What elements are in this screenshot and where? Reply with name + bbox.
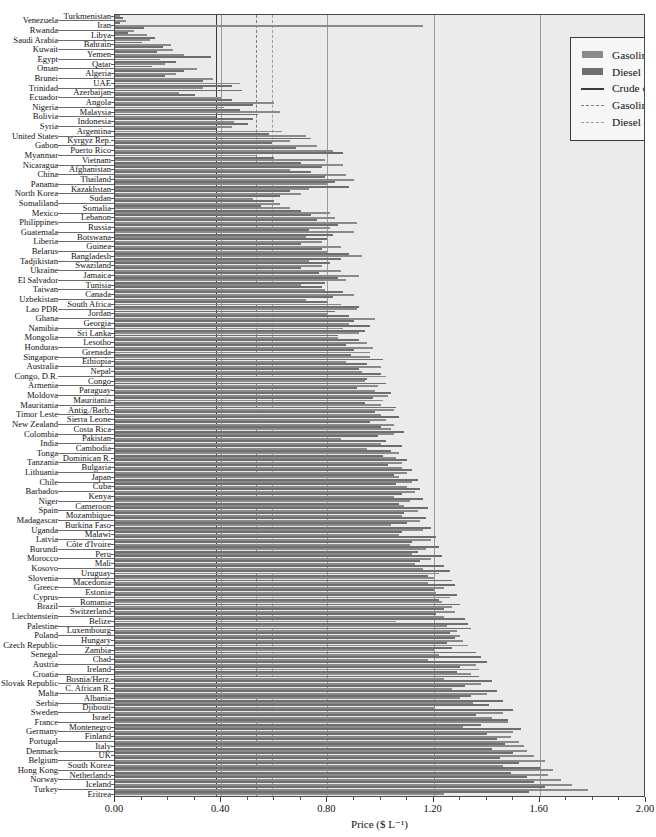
country-label-inner: Grenada xyxy=(82,348,111,356)
label-leader xyxy=(111,496,114,497)
country-label-inner: UAE xyxy=(93,79,111,87)
country-label-inner: Bosnia/Herz. xyxy=(66,675,111,683)
country-label-inner: Tunisia xyxy=(86,281,111,289)
x-tick-label: 1.60 xyxy=(530,803,548,814)
country-label-inner: Iceland xyxy=(86,780,111,788)
country-label-inner: South Korea xyxy=(68,761,111,769)
label-leader xyxy=(111,140,114,141)
legend-label: Gasoline xyxy=(612,49,645,61)
country-label-inner: Botswana xyxy=(77,233,111,241)
x-axis: 0.000.400.801.201.602.00 xyxy=(114,797,645,837)
country-label-inner: Peru xyxy=(95,550,111,558)
label-leader xyxy=(111,410,114,411)
country-label-inner: UK xyxy=(99,751,111,759)
country-label-inner: Nepal xyxy=(90,367,111,375)
label-leader xyxy=(111,112,114,113)
label-leader xyxy=(111,717,114,718)
label-leader xyxy=(111,169,114,170)
label-leader xyxy=(111,381,114,382)
country-label-inner: Pakistan xyxy=(82,434,111,442)
label-leader xyxy=(111,458,114,459)
country-label-inner: Georgia xyxy=(83,319,111,327)
label-leader xyxy=(111,698,114,699)
label-leader xyxy=(111,400,114,401)
country-label-inner: Sudan xyxy=(90,194,111,202)
label-leader xyxy=(111,285,114,286)
label-leader xyxy=(111,794,114,795)
country-label-inner: Kazakhstan xyxy=(71,185,111,193)
label-leader xyxy=(111,390,114,391)
label-leader xyxy=(111,189,114,190)
country-label-inner: Swaziland xyxy=(75,261,111,269)
label-leader xyxy=(111,361,114,362)
fuel-price-chart: GasolineDieselCrude oil price $0.38 L⁻¹G… xyxy=(0,0,656,837)
x-tick xyxy=(326,797,327,802)
country-label-inner: Finland xyxy=(85,732,111,740)
country-label-inner: Canada xyxy=(85,290,111,298)
label-leader xyxy=(111,92,114,93)
country-label-inner: Lebanon xyxy=(81,213,111,221)
legend-row: Gasoline xyxy=(581,46,645,63)
x-tick xyxy=(220,797,221,802)
country-label-inner: Angola xyxy=(86,98,111,106)
country-label-inner: Jordan xyxy=(88,309,111,317)
country-label-inner: Montenegro xyxy=(69,723,111,731)
legend-key-diesel-cost-line xyxy=(581,114,605,131)
label-leader xyxy=(111,313,114,314)
label-leader xyxy=(111,727,114,728)
legend-key-gasoline-swatch xyxy=(581,46,605,63)
country-label-inner: Somalia xyxy=(83,204,111,212)
x-tick xyxy=(353,797,354,800)
country-label-inner: Kyrgyz Rep. xyxy=(67,136,111,144)
label-leader xyxy=(111,294,114,295)
inner-country-label-column: TurkmenistanIranLibyaBahrainYemenQatarAl… xyxy=(0,14,114,797)
country-label-inner: Ireland xyxy=(87,665,111,673)
label-leader xyxy=(111,506,114,507)
label-leader xyxy=(111,25,114,26)
label-leader xyxy=(111,611,114,612)
bar-rows xyxy=(115,15,644,796)
x-tick-label: 2.00 xyxy=(636,803,654,814)
country-label-inner: Afghanistan xyxy=(69,165,111,173)
x-tick xyxy=(380,797,381,800)
label-leader xyxy=(111,265,114,266)
label-leader xyxy=(111,650,114,651)
country-label-inner: Burkina Faso xyxy=(65,521,111,529)
legend-label: Crude oil price $0.38 L⁻¹ xyxy=(612,82,645,95)
x-tick xyxy=(592,797,593,800)
label-leader xyxy=(111,775,114,776)
country-label-inner: Malawi xyxy=(85,530,111,538)
label-leader xyxy=(111,83,114,84)
country-label-inner: Hungary xyxy=(81,636,111,644)
label-leader xyxy=(111,602,114,603)
country-label-inner: Algeria xyxy=(85,69,111,77)
label-leader xyxy=(111,256,114,257)
label-leader xyxy=(111,582,114,583)
x-tick xyxy=(618,797,619,800)
label-leader xyxy=(111,160,114,161)
legend-label: Diesel xyxy=(612,66,641,78)
x-tick xyxy=(645,797,646,802)
country-label-inner: Cameroon xyxy=(75,502,111,510)
country-label-inner: Yemen xyxy=(87,50,111,58)
label-leader xyxy=(111,16,114,17)
plot-area: GasolineDieselCrude oil price $0.38 L⁻¹G… xyxy=(114,14,645,797)
country-label-inner: Dominican R. xyxy=(63,454,111,462)
label-leader xyxy=(111,227,114,228)
country-label-inner: Bulgaria xyxy=(81,463,111,471)
country-label-inner: Albania xyxy=(84,694,111,702)
label-leader xyxy=(111,515,114,516)
label-leader xyxy=(111,352,114,353)
country-label-inner: Argentina xyxy=(77,127,111,135)
label-leader xyxy=(111,44,114,45)
label-leader xyxy=(111,707,114,708)
label-leader xyxy=(111,669,114,670)
country-label-inner: Italy xyxy=(95,742,111,750)
label-leader xyxy=(111,179,114,180)
country-label-inner: Azerbaijan xyxy=(73,88,111,96)
legend-label: Diesel cost $0.59 L⁻¹ xyxy=(612,116,645,129)
country-label-inner: Bahrain xyxy=(84,40,111,48)
country-label-inner: Estonia xyxy=(85,588,111,596)
label-leader xyxy=(111,755,114,756)
country-label-inner: Cuba xyxy=(93,482,111,490)
